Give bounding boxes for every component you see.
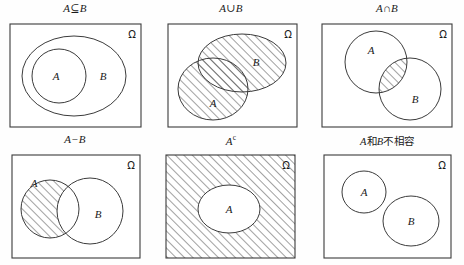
omega-label: Ω <box>438 160 446 171</box>
panel-disjoint: A和B不相容 A B Ω <box>314 133 460 263</box>
label-a: A <box>52 70 60 82</box>
panel-subset-title-b: B <box>80 2 87 14</box>
panel-complement: Ac A Ω <box>158 133 304 263</box>
label-a: A <box>367 44 375 56</box>
panel-difference-stage: A B Ω <box>2 147 148 261</box>
panel-complement-title: Ac <box>158 133 304 147</box>
panel-union-title-b: B <box>236 2 243 14</box>
panel-complement-title-a: A <box>226 135 233 147</box>
omega-label: Ω <box>127 160 135 171</box>
panel-subset-stage: A B Ω <box>2 16 148 130</box>
panel-disjoint-title-mid: 和 <box>367 135 377 147</box>
panel-difference-title-op: − <box>71 133 79 145</box>
label-b: B <box>412 93 419 105</box>
label-b: B <box>95 208 102 220</box>
panel-intersection: A∩B A B Ω <box>314 2 460 130</box>
panel-disjoint-title-a: A <box>360 136 367 147</box>
venn-diagram-sheet: A⊆B A B Ω A∪B <box>0 0 464 265</box>
label-a: A <box>30 177 38 189</box>
label-a: A <box>209 97 217 109</box>
label-b: B <box>408 215 415 227</box>
panel-intersection-title-op: ∩ <box>383 2 391 14</box>
panel-difference-title: A−B <box>2 133 148 145</box>
panel-intersection-stage: A B Ω <box>314 16 460 130</box>
label-b: B <box>253 56 260 68</box>
panel-difference: A−B A B Ω <box>2 133 148 263</box>
panel-subset: A⊆B A B Ω <box>2 2 148 130</box>
panel-union-title: A∪B <box>158 2 304 15</box>
universe-rect <box>10 24 141 127</box>
difference-shading <box>12 155 140 258</box>
panel-intersection-title-a: A <box>376 2 383 14</box>
omega-label: Ω <box>282 160 290 171</box>
panel-intersection-title: A∩B <box>314 2 460 14</box>
panel-subset-title: A⊆B <box>2 2 148 15</box>
label-a: A <box>360 186 368 198</box>
panel-disjoint-title: A和B不相容 <box>314 133 460 148</box>
panel-complement-title-sup: c <box>233 133 237 142</box>
label-a: A <box>225 203 233 215</box>
panel-union-stage: B A Ω <box>158 16 304 130</box>
panel-difference-title-b: B <box>79 133 86 145</box>
panel-complement-stage: A Ω <box>158 147 304 261</box>
panel-subset-title-op: ⊆ <box>70 2 79 14</box>
panel-disjoint-stage: A B Ω <box>314 147 460 261</box>
universe-rect <box>324 155 451 258</box>
panel-disjoint-title-tail: 不相容 <box>383 135 414 147</box>
panel-union: A∪B B A <box>158 2 304 130</box>
panel-intersection-title-b: B <box>391 2 398 14</box>
omega-label: Ω <box>439 29 447 40</box>
omega-label: Ω <box>128 29 136 40</box>
omega-label: Ω <box>284 29 292 40</box>
panel-union-title-op: ∪ <box>226 2 235 14</box>
label-b: B <box>100 70 107 82</box>
